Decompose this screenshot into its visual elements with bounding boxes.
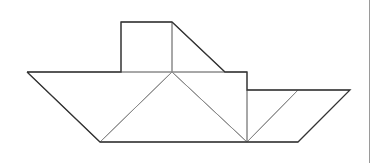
piece-parallelogram [247, 90, 350, 142]
outline-path [27, 22, 350, 142]
piece-hull-right-triangle [172, 72, 247, 142]
piece-square [121, 22, 172, 72]
boat-outline [27, 22, 350, 142]
piece-hull-left-triangle [27, 72, 172, 142]
piece-hull-middle-triangle [100, 72, 247, 142]
inner-piece-lines [27, 22, 350, 142]
tangram-boat-diagram [0, 0, 370, 163]
